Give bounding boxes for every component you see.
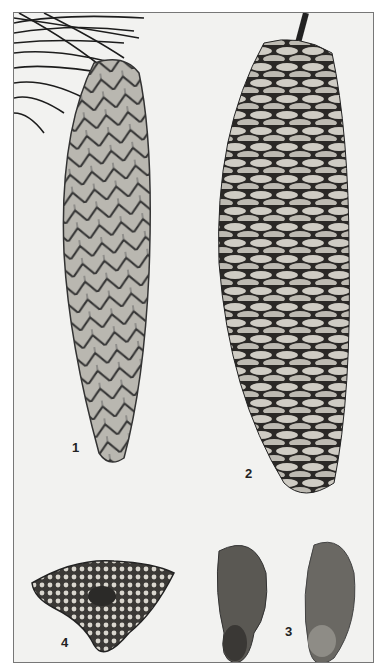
figure-label-1: 1 — [72, 440, 79, 455]
figure-label-2: 2 — [245, 466, 252, 481]
botanical-plate: 1 2 3 4 — [13, 12, 374, 663]
figure-label-3: 3 — [285, 624, 292, 639]
cone-1 — [63, 60, 150, 462]
figure-label-4: 4 — [61, 635, 68, 650]
cross-section — [32, 561, 174, 652]
cone-2 — [219, 40, 350, 493]
plate-illustration — [14, 13, 373, 662]
